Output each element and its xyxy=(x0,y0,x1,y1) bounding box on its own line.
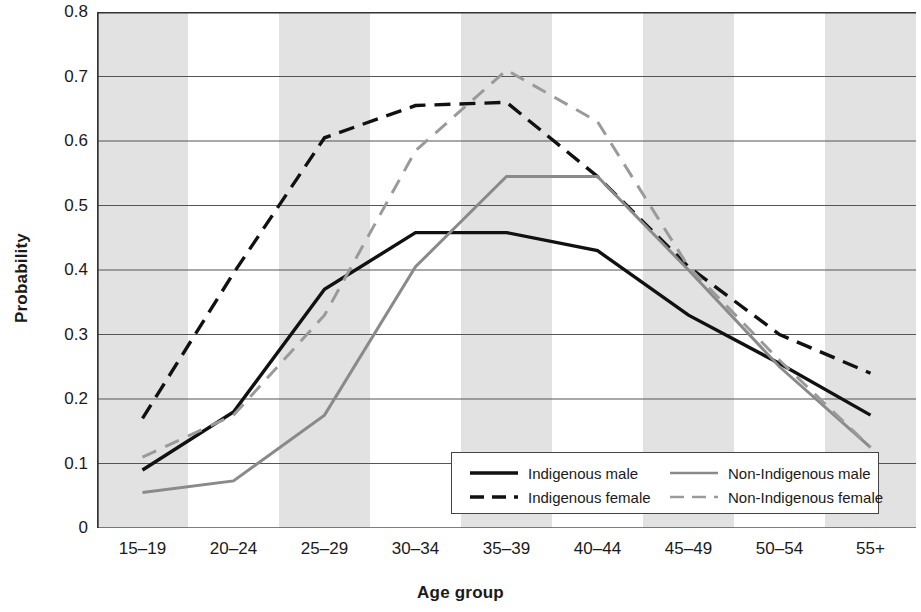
y-tick-label: 0.2 xyxy=(24,390,88,407)
x-tick-label: 55+ xyxy=(825,539,916,559)
legend-item: Indigenous female xyxy=(470,486,651,508)
x-axis-title: Age group xyxy=(0,583,921,603)
legend-label: Non-Indigenous male xyxy=(728,466,871,481)
x-axis-tick-labels: 15–1920–2425–2930–3435–3940–4445–4950–54… xyxy=(97,539,916,573)
y-tick-label: 0.8 xyxy=(24,3,88,20)
legend-item: Non-Indigenous female xyxy=(670,486,883,508)
y-tick-label: 0.4 xyxy=(24,261,88,278)
legend-label: Indigenous female xyxy=(528,490,651,505)
legend-line-swatch-icon xyxy=(670,491,718,503)
x-tick-label: 25–29 xyxy=(279,539,370,559)
y-tick-label: 0.7 xyxy=(24,68,88,85)
legend-item: Non-Indigenous male xyxy=(670,462,871,484)
x-tick-label: 45–49 xyxy=(643,539,734,559)
y-tick-label: 0 xyxy=(24,519,88,536)
chart-figure: Probability 0.80.70.60.50.40.30.20.10 15… xyxy=(0,0,921,612)
y-tick-label: 0.3 xyxy=(24,326,88,343)
legend-item: Indigenous male xyxy=(470,462,638,484)
x-tick-label: 40–44 xyxy=(552,539,643,559)
legend-line-swatch-icon xyxy=(470,467,518,479)
legend-label: Indigenous male xyxy=(528,466,638,481)
x-tick-label: 30–34 xyxy=(370,539,461,559)
legend-label: Non-Indigenous female xyxy=(728,490,883,505)
x-tick-label: 35–39 xyxy=(461,539,552,559)
chart-svg xyxy=(97,12,916,528)
y-tick-label: 0.1 xyxy=(24,455,88,472)
x-tick-label: 20–24 xyxy=(188,539,279,559)
legend-line-swatch-icon xyxy=(470,491,518,503)
y-tick-label: 0.6 xyxy=(24,132,88,149)
chart-legend: Indigenous maleIndigenous femaleNon-Indi… xyxy=(451,452,879,514)
legend-line-swatch-icon xyxy=(670,467,718,479)
x-tick-label: 50–54 xyxy=(734,539,825,559)
y-axis-tick-labels: 0.80.70.60.50.40.30.20.10 xyxy=(16,0,88,540)
x-tick-label: 15–19 xyxy=(97,539,188,559)
y-tick-label: 0.5 xyxy=(24,197,88,214)
plot-area xyxy=(97,12,916,528)
